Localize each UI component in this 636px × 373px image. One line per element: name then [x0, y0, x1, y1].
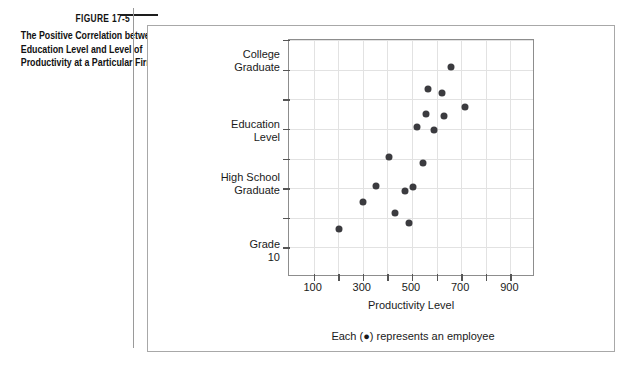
- gridline-vertical: [461, 40, 462, 275]
- gridline-vertical: [510, 40, 511, 275]
- gridline-horizontal: [289, 218, 533, 219]
- scatter-point: [440, 113, 447, 120]
- figure-caption-block: FIGURE 17-5 The Positive Correlation bet…: [0, 12, 130, 70]
- x-axis-tick-label: 900: [489, 281, 529, 293]
- scatter-point: [438, 90, 445, 97]
- gridline-horizontal: [289, 129, 533, 130]
- scatter-point: [359, 199, 366, 206]
- scatter-point: [448, 63, 455, 70]
- scatter-point: [385, 154, 392, 161]
- gridline-vertical: [437, 40, 438, 275]
- figure-number-label: FIGURE 17-5: [26, 12, 130, 24]
- x-axis-tick-label: 500: [391, 281, 431, 293]
- x-axis-tick-label: 100: [293, 281, 333, 293]
- gridline-vertical: [338, 40, 339, 275]
- gridline-horizontal: [289, 99, 533, 100]
- caption-divider-rule: [133, 8, 134, 348]
- scatter-point: [424, 85, 431, 92]
- gridline-vertical: [412, 40, 413, 275]
- scatter-point: [420, 159, 427, 166]
- y-axis-tick: [283, 70, 290, 71]
- y-axis-title: Education Level: [170, 118, 280, 143]
- ytick-label-college-graduate: College Graduate: [170, 48, 280, 73]
- scatter-point: [401, 188, 408, 195]
- y-axis-tick: [283, 247, 290, 248]
- gridline-horizontal: [289, 159, 533, 160]
- scatter-point: [461, 103, 468, 110]
- y-axis-tick: [283, 99, 290, 100]
- x-axis-tick: [363, 274, 364, 281]
- caption-line-2: Education Level and Level of: [21, 43, 130, 57]
- ytick-label-grade-10: Grade 10: [170, 238, 280, 263]
- scatter-point: [405, 220, 412, 227]
- x-axis-tick: [387, 274, 388, 281]
- caption-line-3: Productivity at a Particular Firm: [21, 56, 130, 70]
- caption-top-rule: [120, 14, 158, 16]
- scatter-point: [413, 124, 420, 131]
- x-axis-tick: [338, 274, 339, 281]
- scatter-point: [391, 210, 398, 217]
- x-axis-tick-label: 300: [342, 281, 382, 293]
- scatter-plot-axes: [288, 39, 534, 276]
- y-axis-tick: [283, 218, 290, 219]
- gridline-horizontal: [289, 40, 533, 41]
- y-axis-tick: [283, 188, 290, 189]
- x-axis-tick: [412, 274, 413, 281]
- figure-caption-text: The Positive Correlation between Educati…: [21, 29, 130, 70]
- x-axis-tick: [437, 274, 438, 281]
- x-axis-title: Productivity Level: [288, 299, 534, 311]
- x-axis-tick-label: 700: [440, 281, 480, 293]
- y-axis-tick: [283, 159, 290, 160]
- scatter-point: [336, 226, 343, 233]
- y-axis-tick: [283, 129, 290, 130]
- gridline-horizontal: [289, 247, 533, 248]
- x-axis-tick: [486, 274, 487, 281]
- x-axis-tick: [314, 274, 315, 281]
- caption-line-1: The Positive Correlation between: [21, 29, 130, 43]
- scatter-point: [422, 111, 429, 118]
- ytick-label-high-school-graduate: High School Graduate: [170, 171, 280, 196]
- x-axis-tick: [510, 274, 511, 281]
- y-axis-tick: [283, 40, 290, 41]
- x-axis-tick: [461, 274, 462, 281]
- gridline-vertical: [314, 40, 315, 275]
- scatter-point: [372, 183, 379, 190]
- scatter-point: [431, 127, 438, 134]
- gridline-horizontal: [289, 70, 533, 71]
- gridline-vertical: [363, 40, 364, 275]
- gridline-vertical: [486, 40, 487, 275]
- scatter-point: [410, 183, 417, 190]
- legend-note: Each (●) represents an employee: [248, 330, 578, 342]
